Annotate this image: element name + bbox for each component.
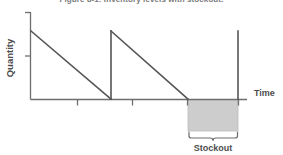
x-axis-label: Time — [254, 88, 275, 98]
stockout-region-rect — [188, 100, 238, 132]
chart-plot-area: Stockout Time Quantity — [0, 0, 283, 155]
depletion-segment-2 — [111, 31, 188, 99]
stockout-label: Stockout — [194, 143, 233, 153]
stockout-brace — [189, 132, 238, 141]
inventory-level-series — [31, 31, 238, 99]
depletion-segment-1 — [31, 31, 111, 99]
inventory-stockout-figure: Figure 8-1: Inventory levels with stocko… — [0, 0, 283, 155]
y-axis-label: Quantity — [4, 38, 15, 77]
